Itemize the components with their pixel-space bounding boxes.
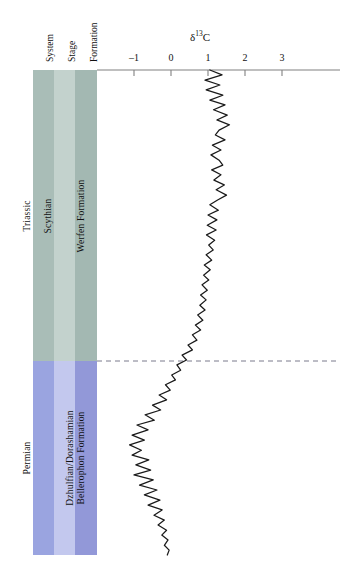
isotope-curve [130,70,230,555]
x-axis-ticks [134,70,282,76]
figure-root: System Stage Formation Triassic Permian … [0,0,343,568]
plot-svg [0,0,343,568]
